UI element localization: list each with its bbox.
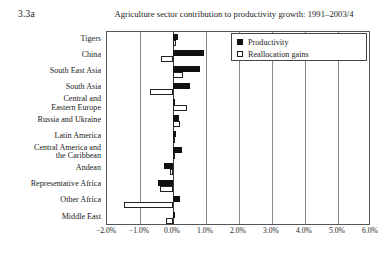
bar-group <box>107 115 369 127</box>
bar-reallocation-gains <box>166 218 173 224</box>
legend-label-productivity: Productivity <box>248 38 288 47</box>
legend-label-reallocation-gains: Reallocation gains <box>248 50 309 59</box>
bar-group <box>107 212 369 224</box>
category-axis-labels: TigersChinaSouth East AsiaSouth AsiaCent… <box>0 31 101 225</box>
bar-reallocation-gains <box>124 202 174 208</box>
category-label: Other Africa <box>0 196 101 205</box>
bar-group <box>107 163 369 175</box>
category-label: Andean <box>0 164 101 173</box>
bar-group <box>107 131 369 143</box>
filled-square-icon <box>237 39 243 45</box>
bar-reallocation-gains <box>173 72 183 78</box>
bar-group <box>107 180 369 192</box>
category-label: Middle East <box>0 213 101 222</box>
category-label: Russia and Ukraine <box>0 116 101 125</box>
bar-reallocation-gains <box>170 169 173 175</box>
category-label: Representative Africa <box>0 180 101 189</box>
bar-group <box>107 196 369 208</box>
bar-productivity <box>173 83 190 89</box>
legend-item-productivity: Productivity <box>237 36 366 48</box>
category-label: Tigers <box>0 35 101 44</box>
bar-reallocation-gains <box>161 56 173 62</box>
category-label: South Asia <box>0 83 101 92</box>
bar-productivity <box>173 196 180 202</box>
x-tick-label: 6.0% <box>348 226 388 235</box>
x-axis-ticks: −2.0%−1.0%0.0%1.0%2.0%3.0%4.0%5.0%6.0% <box>106 226 370 242</box>
hollow-square-icon <box>237 51 243 57</box>
bar-reallocation-gains <box>173 121 180 127</box>
category-label: Central and Eastern Europe <box>0 95 101 112</box>
bar-reallocation-gains <box>160 186 173 192</box>
bar-reallocation-gains <box>150 89 173 95</box>
bar-productivity <box>173 50 204 56</box>
category-label: Central America and the Caribbean <box>0 144 101 161</box>
category-label: Latin America <box>0 132 101 141</box>
bar-reallocation-gains <box>173 137 175 143</box>
chart-legend: Productivity Reallocation gains <box>231 33 367 61</box>
bar-productivity <box>173 212 175 218</box>
bar-group <box>107 99 369 111</box>
bar-reallocation-gains <box>173 153 175 159</box>
bar-reallocation-gains <box>173 40 176 46</box>
bar-reallocation-gains <box>173 105 187 111</box>
bar-group <box>107 147 369 159</box>
category-label: China <box>0 51 101 60</box>
bar-group <box>107 66 369 78</box>
bar-group <box>107 83 369 95</box>
legend-item-reallocation-gains: Reallocation gains <box>237 48 366 60</box>
chart-title: Agriculture sector contribution to produ… <box>88 9 380 19</box>
panel-identifier: 3.3a <box>18 9 35 19</box>
category-label: South East Asia <box>0 67 101 76</box>
